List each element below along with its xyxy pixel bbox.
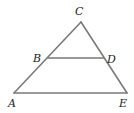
label-d: D: [106, 53, 116, 66]
label-c: C: [75, 5, 84, 18]
triangle-diagram: C B D A E: [0, 0, 134, 113]
label-a: A: [7, 97, 16, 110]
label-b: B: [32, 52, 41, 65]
label-e: E: [118, 97, 127, 110]
